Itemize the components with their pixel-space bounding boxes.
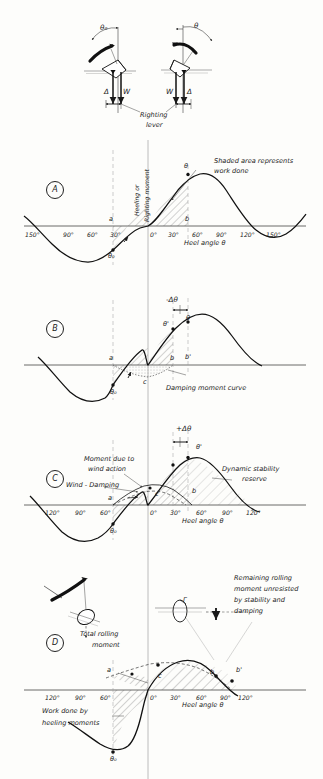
panel-d-tick-right-0: 0° [150, 694, 157, 701]
panel-d-total-rolling-note-line2: moment [92, 642, 120, 650]
panel-d-remaining-note-line1: Remaining rolling [234, 575, 292, 583]
panel-b-chart [24, 298, 306, 401]
panel-a-tick-left-30: 30° [110, 231, 121, 238]
panel-b-delta-theta-negative: -Δθ [166, 296, 178, 304]
left-ship-section [84, 27, 140, 113]
panel-a-shaded-note-line2: work done [214, 168, 249, 176]
ship-sections-group [84, 25, 212, 113]
left-ship-angle-label: θ₀ [100, 24, 107, 32]
panel-d-remaining-note-line4: damping [234, 608, 263, 616]
panel-d-ship-left [44, 577, 100, 638]
panel-c-shaded-left [113, 490, 148, 524]
panel-d-tick-right-30: 30° [170, 694, 181, 701]
righting-lever-label-line1: Righting [140, 112, 168, 120]
panel-c-tick-right-0: 0° [150, 509, 157, 516]
panel-c-point-theta0: θ₀ [110, 527, 117, 535]
panel-d-tick-right-120: 120° [238, 694, 253, 701]
panel-a-tick-right-60: 60° [192, 231, 203, 238]
panel-c-tick-left-90: 90° [75, 509, 86, 516]
left-ship-force-delta: Δ [104, 88, 109, 96]
panel-b-point-theta: θ [186, 314, 190, 322]
panel-c-reserve-note-line2: reserve [242, 476, 267, 484]
panel-d-total-rolling-note-line1: Total rolling [80, 631, 118, 639]
panel-d-tick-left-120: 120° [45, 694, 60, 701]
panel-d-work-done-note-line2: heeling moments [42, 720, 100, 728]
figure-sheet: θ₀ θ Δ W W Δ Righting lever A B C D Heel… [0, 0, 323, 779]
panel-d-tick-left-90: 90° [75, 694, 86, 701]
panel-d-work-done-note-line1: Work done by [42, 708, 88, 716]
panel-b-point-b-prime: b' [185, 353, 191, 361]
panel-b-point-a: a [109, 354, 113, 362]
panel-c-point-b: b [192, 487, 196, 495]
panel-c-tick-left-60: 60° [100, 509, 111, 516]
panel-c-point-theta-prime: θ' [196, 443, 202, 451]
panel-a-point-theta0: θ₀ [108, 252, 115, 260]
right-ship-angle-label: θ [194, 22, 198, 30]
panel-badge-b: B [46, 320, 64, 338]
panel-a-tick-right-90: 90° [216, 231, 227, 238]
right-ship-force-w: W [166, 88, 173, 96]
panel-a-tick-right-150: 150° [266, 231, 281, 238]
panel-a-tick-right-30: 30° [168, 231, 179, 238]
panel-c-delta-theta-positive: +Δθ [176, 425, 191, 433]
panel-d-point-gamma: Γ [183, 596, 187, 604]
panel-c-tick-right-90: 90° [222, 509, 233, 516]
panel-c-tick-right-30: 30° [170, 509, 181, 516]
panel-d-point-b: b [210, 668, 214, 676]
panel-a-x-axis-label: Heel angle θ [184, 240, 225, 248]
panel-b-damping-note: Damping moment curve [166, 385, 246, 393]
panel-a-y-axis-label-line1: Heeling or [133, 185, 140, 216]
panel-d-point-theta0: θ₀ [110, 755, 117, 763]
panel-b-point-theta-prime: θ' [163, 320, 169, 328]
panel-a-point-b: b [185, 215, 189, 223]
panel-d-tick-left-60: 60° [100, 694, 111, 701]
panel-d-point-b-prime: b' [236, 666, 242, 674]
panel-a-point-theta: θ [184, 162, 188, 170]
panel-c-tick-left-120: 120° [45, 509, 60, 516]
panel-b-point-c: c [143, 378, 147, 386]
panel-d-remaining-note-line3: by stability and [234, 597, 285, 605]
panel-a-tick-right-120: 120° [240, 231, 255, 238]
panel-a-chart [24, 150, 306, 265]
panel-d-point-a: a [107, 666, 111, 674]
panel-badge-d: D [46, 634, 64, 652]
panel-a-shaded-note-line1: Shaded area represents [214, 158, 293, 166]
panel-badge-c: C [46, 470, 64, 488]
panel-d-tick-right-60: 60° [196, 694, 207, 701]
right-ship-force-delta: Δ [187, 88, 192, 96]
panel-a-point-a: a [109, 215, 113, 223]
panel-d-tick-right-90: 90° [220, 694, 231, 701]
panel-a-tick-left-150: 150° [25, 231, 40, 238]
panel-b-point-b: b [170, 354, 174, 362]
panel-c-wind-damping-note: Wind - Damping [66, 482, 119, 490]
panel-c-tick-right-120: 120° [246, 509, 261, 516]
panel-d-work-done-region-2 [113, 674, 148, 690]
panel-d-remaining-note-line2: moment unresisted [234, 586, 298, 594]
panel-c-point-c: c [155, 490, 159, 498]
panel-a-y-axis-label-line2: Righting moment [143, 169, 150, 222]
panel-c-tick-right-60: 60° [196, 509, 207, 516]
panel-d-x-axis-label: Heel angle θ [182, 702, 223, 710]
right-ship-section [161, 25, 212, 113]
panel-badge-a: A [46, 181, 64, 199]
panel-c-point-a: a [108, 494, 112, 502]
panel-c-reserve-note-line1: Dynamic stability [222, 466, 279, 474]
righting-lever-label-line2: lever [146, 122, 163, 130]
panel-c-x-axis-label: Heel angle θ [182, 518, 223, 526]
panel-b-point-theta0: θ₀ [110, 388, 117, 396]
panel-a-tick-right-0: 0° [150, 231, 157, 238]
left-ship-force-w: W [123, 88, 130, 96]
panel-c-wind-note-line1: Moment due to [84, 456, 134, 464]
panel-c-wind-note-line2: wind action [88, 466, 126, 474]
panel-a-tick-left-90: 90° [63, 231, 74, 238]
panel-d-point-c: c [158, 672, 162, 680]
panel-a-tick-left-60: 60° [87, 231, 98, 238]
